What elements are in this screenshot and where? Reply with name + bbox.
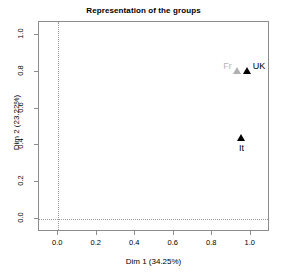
data-point-marker-it bbox=[237, 134, 245, 141]
x-axis-tick-label: 0.8 bbox=[199, 238, 223, 247]
x-axis-tick bbox=[57, 231, 58, 235]
x-axis-label: Dim 1 (34.25%) bbox=[38, 257, 269, 266]
y-axis-tick-label: 0.4 bbox=[16, 133, 25, 155]
x-axis-tick-label: 0.0 bbox=[45, 238, 69, 247]
x-axis-tick-label: 0.6 bbox=[161, 238, 185, 247]
y-axis-tick-label: 0.2 bbox=[16, 170, 25, 192]
scatter-plot-figure: Representation of the groups FrUKIt Dim … bbox=[0, 0, 287, 274]
y-axis-tick bbox=[34, 71, 38, 72]
chart-title: Representation of the groups bbox=[0, 6, 287, 15]
data-point-marker-fr bbox=[233, 67, 241, 74]
y-axis-tick-label: 0.0 bbox=[16, 207, 25, 229]
reference-line-horizontal bbox=[39, 219, 268, 220]
y-axis-tick-label: 0.6 bbox=[16, 96, 25, 118]
x-axis-tick bbox=[96, 231, 97, 235]
y-axis-tick bbox=[34, 181, 38, 182]
plot-area bbox=[38, 21, 269, 231]
data-point-label-uk: UK bbox=[253, 62, 266, 71]
x-axis-tick bbox=[250, 231, 251, 235]
reference-line-vertical bbox=[58, 22, 59, 230]
y-axis-tick-label: 0.8 bbox=[16, 59, 25, 81]
x-axis-tick-label: 0.4 bbox=[122, 238, 146, 247]
y-axis-tick bbox=[34, 144, 38, 145]
data-point-label-fr: Fr bbox=[223, 62, 232, 71]
y-axis-tick bbox=[34, 218, 38, 219]
data-point-marker-uk bbox=[243, 67, 251, 74]
x-axis-tick bbox=[211, 231, 212, 235]
x-axis-tick-label: 1.0 bbox=[238, 238, 262, 247]
y-axis-tick-label: 1.0 bbox=[16, 22, 25, 44]
y-axis-tick bbox=[34, 108, 38, 109]
x-axis-tick bbox=[173, 231, 174, 235]
data-point-label-it: It bbox=[239, 144, 244, 153]
y-axis-tick bbox=[34, 34, 38, 35]
x-axis-tick-label: 0.2 bbox=[84, 238, 108, 247]
x-axis-tick bbox=[134, 231, 135, 235]
